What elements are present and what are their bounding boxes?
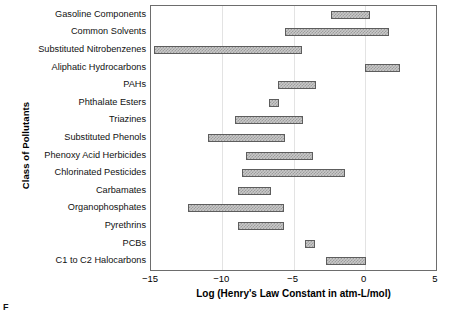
y-tick-label: Substituted Nitrobenzenes — [10, 44, 146, 54]
x-tick-label: 0 — [361, 273, 366, 284]
y-tick-label: PCBs — [10, 238, 146, 248]
range-bar — [326, 257, 366, 265]
range-bar — [235, 116, 303, 124]
gridline — [365, 6, 366, 270]
y-tick-label: PAHs — [10, 79, 146, 89]
chart-figure: Class of Pollutants Gasoline ComponentsC… — [0, 0, 450, 312]
range-bar — [154, 46, 302, 54]
x-tick-label: −15 — [142, 273, 158, 284]
y-tick-label: Gasoline Components — [10, 9, 146, 19]
y-tick-label: Aliphatic Hydrocarbons — [10, 62, 146, 72]
range-bar — [278, 81, 316, 89]
x-tick-label: −10 — [213, 273, 229, 284]
y-tick-label: Pyrethrins — [10, 220, 146, 230]
y-tick-label: Carbamates — [10, 185, 146, 195]
range-bar — [365, 64, 401, 72]
plot-area — [150, 5, 437, 271]
y-tick-label: Triazines — [10, 114, 146, 124]
range-bar — [188, 204, 283, 212]
x-axis-tick-labels: −15−10−505 — [150, 273, 437, 287]
y-tick-label: Chlorinated Pesticides — [10, 167, 146, 177]
x-tick-label: 5 — [432, 273, 437, 284]
y-tick-label: Phenoxy Acid Herbicides — [10, 150, 146, 160]
range-bar — [238, 222, 284, 230]
range-bar — [285, 28, 389, 36]
x-tick-label: −5 — [287, 273, 298, 284]
y-tick-label: Organophosphates — [10, 202, 146, 212]
range-bar — [242, 169, 345, 177]
range-bar — [208, 134, 285, 142]
x-axis-title: Log (Henry's Law Constant in atm-L/mol) — [150, 288, 437, 299]
range-bar — [269, 99, 279, 107]
y-tick-label: Phthalate Esters — [10, 97, 146, 107]
range-bar — [246, 152, 313, 160]
y-tick-label: C1 to C2 Halocarbons — [10, 255, 146, 265]
y-tick-label: Substituted Phenols — [10, 132, 146, 142]
caption-sliver: F — [3, 303, 9, 312]
y-axis-tick-labels: Gasoline ComponentsCommon SolventsSubsti… — [10, 5, 146, 271]
range-bar — [305, 240, 315, 248]
range-bar — [238, 187, 271, 195]
y-tick-label: Common Solvents — [10, 26, 146, 36]
range-bar — [331, 11, 371, 19]
